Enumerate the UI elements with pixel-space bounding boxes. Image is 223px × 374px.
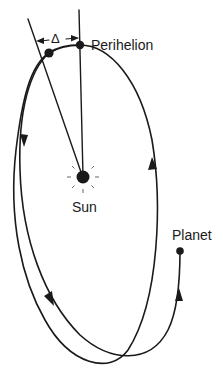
orbit-top-connector: [49, 45, 80, 53]
orbit-arrow-left-upper: [20, 134, 28, 147]
perihelion-label: Perihelion: [91, 38, 153, 52]
orbit-arrow-planet: [175, 288, 183, 301]
planet-label: Planet: [172, 228, 212, 242]
perihelion-dot: [76, 41, 84, 49]
orbit-arrow-left-lower: [44, 291, 54, 306]
sun-label: Sun: [72, 200, 97, 214]
orbit-path-second: [20, 53, 180, 356]
delta-label: Δ: [51, 32, 60, 46]
planet-dot: [176, 247, 184, 255]
delta-arrowhead-right: [71, 35, 79, 42]
shifted-perihelion-dot: [44, 48, 53, 57]
sun-icon: [77, 171, 90, 184]
perihelion-axis-line: [79, 10, 83, 176]
orbit-diagram: [0, 0, 223, 374]
delta-arrowhead-left: [36, 38, 44, 45]
